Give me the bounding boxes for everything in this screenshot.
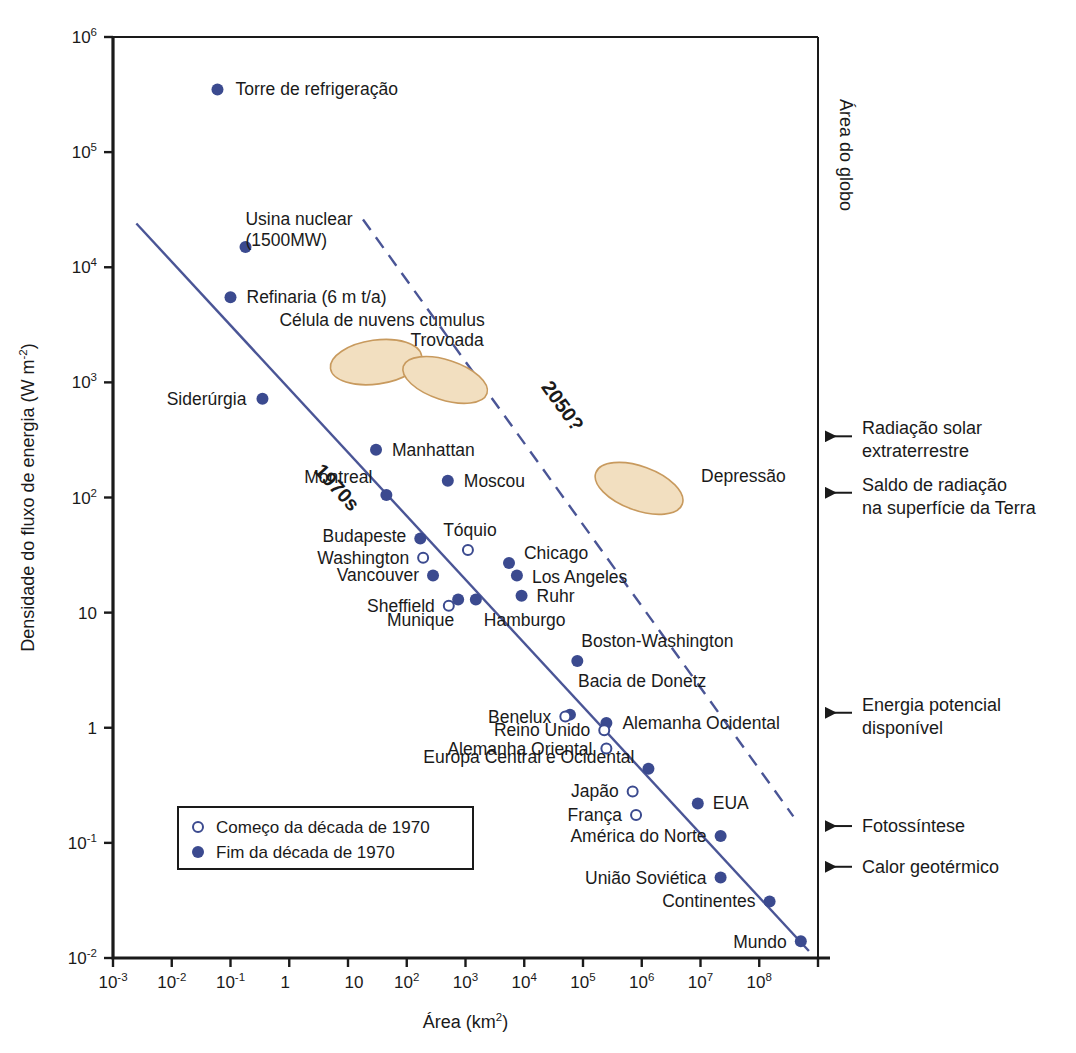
legend-label: Começo da década de 1970 (216, 818, 430, 837)
data-point[interactable]: Manhattan (370, 440, 475, 460)
data-point-label: Mundo (733, 932, 787, 952)
legend: Começo da década de 1970Fim da década de… (178, 807, 473, 869)
globe-area-label: Área do globo (836, 99, 856, 211)
marker-filled[interactable] (511, 570, 523, 582)
threshold-annotation: Radiação solarextraterrestre (826, 418, 982, 461)
y-tick-label: 106 (72, 26, 97, 47)
threshold-annotation: Energia potencialdisponível (826, 695, 1001, 738)
marker-filled[interactable] (414, 533, 426, 545)
y-tick-label: 10-1 (68, 832, 97, 853)
data-point-label: Washington (317, 548, 409, 568)
data-point-label: Alemanha Ocidental (622, 713, 780, 733)
data-point[interactable]: França (568, 805, 641, 825)
marker-filled[interactable] (692, 797, 704, 809)
data-point[interactable]: Reino Unido (494, 720, 609, 740)
data-point-label: Refinaria (6 m t/a) (247, 287, 387, 307)
data-point[interactable]: Alemanha Oriental (447, 739, 611, 759)
marker-hollow[interactable] (463, 545, 473, 555)
x-tick-label: 10-2 (157, 971, 186, 992)
marker-hollow[interactable] (631, 810, 641, 820)
data-point[interactable]: Boston-Washington (571, 631, 733, 667)
marker-filled[interactable] (764, 895, 776, 907)
marker-filled[interactable] (795, 935, 807, 947)
y-tick-label: 10-2 (68, 947, 97, 968)
data-point-label: Reino Unido (494, 720, 590, 740)
x-tick-label: 107 (688, 971, 713, 992)
x-tick-label: 102 (394, 971, 419, 992)
marker-hollow[interactable] (628, 786, 638, 796)
x-tick-label: 10-3 (98, 971, 127, 992)
x-tick-label: 103 (453, 971, 478, 992)
x-tick-label: 104 (512, 971, 538, 992)
data-point-label: Hamburgo (484, 610, 566, 630)
data-point[interactable]: Siderúrgia (167, 389, 269, 409)
data-point[interactable]: Japão (571, 781, 638, 801)
marker-hollow[interactable] (418, 553, 428, 563)
globe-area-bracket: Área do globo (836, 99, 856, 211)
y-axis-ticks: 10610510410310210110-110-2 (68, 26, 113, 968)
region: Depressão (588, 452, 785, 525)
data-point[interactable]: Usina nuclear(1500MW) (239, 209, 352, 253)
threshold-label: Calor geotérmico (862, 857, 999, 877)
marker-filled[interactable] (571, 655, 583, 667)
data-point[interactable]: Alemanha Ocidental (600, 713, 780, 733)
threshold-label: Energia potencialdisponível (862, 695, 1001, 738)
marker-filled[interactable] (211, 83, 223, 95)
marker-filled[interactable] (516, 590, 528, 602)
y-tick-label: 105 (72, 141, 97, 162)
marker-filled[interactable] (642, 763, 654, 775)
marker-filled[interactable] (225, 291, 237, 303)
y-tick-label: 104 (72, 256, 98, 277)
data-point-label: Chicago (524, 543, 588, 563)
data-point-label: Manhattan (392, 440, 475, 460)
marker-filled[interactable] (470, 594, 482, 606)
y-tick-label: 1 (88, 719, 97, 738)
marker-hollow[interactable] (599, 725, 609, 735)
y-axis-title: Densidade do fluxo de energia (W m-2) (17, 343, 38, 651)
data-point[interactable]: União Soviética (585, 868, 727, 888)
marker-filled[interactable] (256, 393, 268, 405)
data-point-label: Ruhr (537, 586, 575, 606)
marker-hollow[interactable] (601, 744, 611, 754)
data-point-label: EUA (713, 793, 749, 813)
marker-filled[interactable] (427, 570, 439, 582)
data-point[interactable]: Los Angeles (511, 567, 628, 587)
marker-filled[interactable] (442, 475, 454, 487)
data-point-label: Los Angeles (532, 567, 628, 587)
x-tick-label: 105 (570, 971, 595, 992)
data-point-label: Moscou (464, 471, 525, 491)
data-point[interactable]: Continentes (662, 891, 775, 911)
data-point[interactable]: Torre de refrigeração (211, 79, 397, 99)
y-tick-label: 10 (78, 604, 97, 623)
data-point-label: Alemanha Oriental (447, 739, 592, 759)
data-point-label: Continentes (662, 891, 756, 911)
y-tick-label: 103 (72, 371, 97, 392)
marker-filled[interactable] (715, 872, 727, 884)
data-point[interactable]: Moscou (442, 471, 525, 491)
data-point[interactable]: Chicago (503, 543, 588, 569)
data-point[interactable]: Ruhr (516, 586, 575, 606)
marker-filled[interactable] (370, 444, 382, 456)
legend-item[interactable]: Começo da década de 1970 (193, 818, 430, 837)
marker-hollow[interactable] (444, 601, 454, 611)
threshold-label: Fotossíntese (862, 816, 965, 836)
data-point[interactable]: América do Norte (570, 826, 726, 846)
threshold-annotation: Fotossíntese (826, 816, 965, 836)
data-point[interactable]: Budapeste (323, 526, 427, 546)
data-point[interactable]: EUA (692, 793, 749, 813)
marker-filled[interactable] (715, 830, 727, 842)
legend-item[interactable]: Fim da década de 1970 (192, 843, 395, 862)
data-point-label: Sheffield (367, 596, 435, 616)
threshold-annotation: Saldo de radiaçãona superfície da Terra (826, 475, 1037, 518)
marker-filled[interactable] (503, 557, 515, 569)
data-point-label: França (568, 805, 623, 825)
data-point-label: América do Norte (570, 826, 706, 846)
data-point[interactable]: Refinaria (6 m t/a) (225, 287, 387, 307)
data-point[interactable]: Tóquio (443, 520, 497, 555)
marker-filled[interactable] (380, 489, 392, 501)
threshold-label: Radiação solarextraterrestre (862, 418, 982, 461)
region: Trovoada (397, 330, 493, 413)
chart-figure: 10610510410310210110-110-210-310-210-111… (0, 0, 1076, 1053)
x-tick-label: 108 (747, 971, 772, 992)
legend-marker-filled (192, 846, 204, 858)
